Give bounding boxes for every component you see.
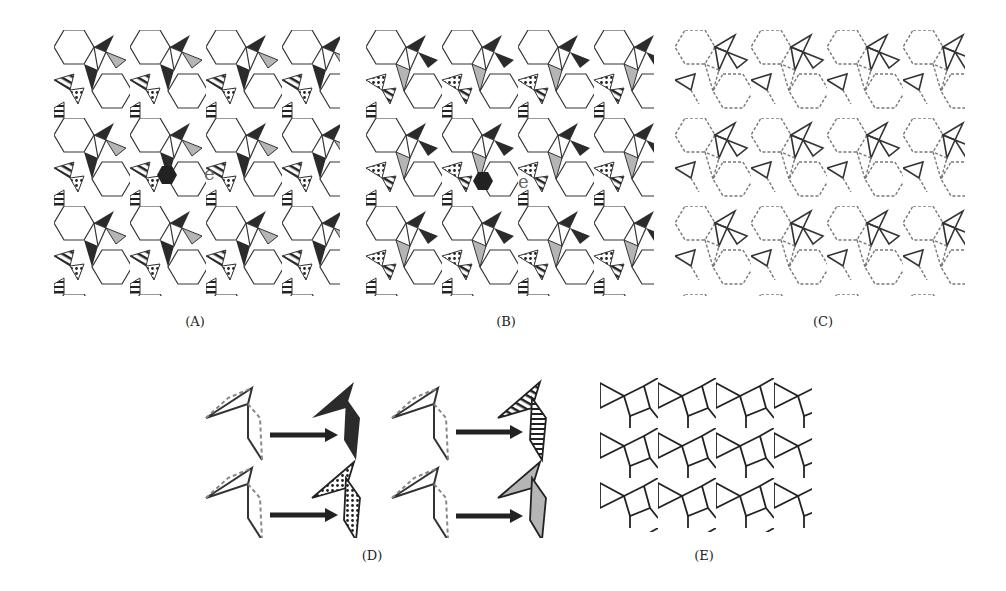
arrow-icon	[325, 508, 338, 522]
tiling-filled-a: e	[54, 30, 340, 296]
panel-label-b: (B)	[476, 314, 536, 329]
tiling-lines-c	[675, 30, 965, 296]
annotation-e: e	[204, 163, 215, 184]
arrow-icon	[510, 509, 523, 523]
motif-row-1-right-hatched	[498, 382, 546, 460]
arrow-icon	[325, 428, 338, 442]
panel-label-c: (C)	[793, 314, 853, 329]
panel-label-d: (D)	[342, 548, 402, 563]
panel-a: e	[54, 30, 340, 296]
panel-e	[600, 378, 812, 532]
panel-label-e: (E)	[674, 548, 734, 563]
motif-mapping-d	[200, 368, 560, 538]
panel-d	[200, 368, 560, 538]
arrow-icon	[510, 425, 523, 439]
motif-row-2-right-gray	[498, 462, 546, 538]
tiling-filled-b: e	[366, 30, 654, 296]
panel-c	[675, 30, 965, 296]
motif-row-1-left	[206, 388, 262, 460]
motif-row-2-right-dotted	[312, 462, 360, 538]
motif-row-1-right-black	[312, 382, 360, 460]
annotation-e: e	[518, 171, 529, 192]
panel-label-a: (A)	[165, 314, 225, 329]
panel-b: e	[366, 30, 654, 296]
tiling-lines-e	[600, 378, 812, 532]
